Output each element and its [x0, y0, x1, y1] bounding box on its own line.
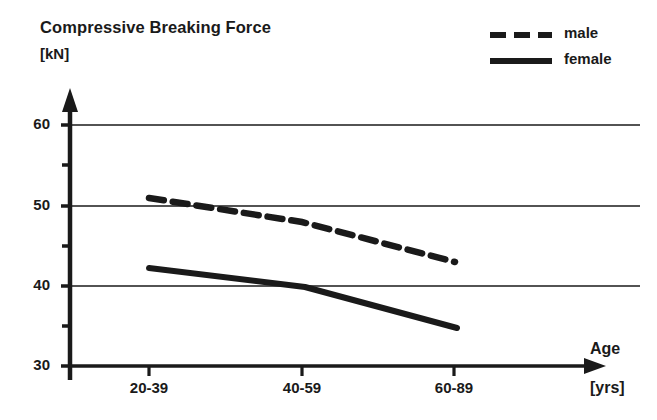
plot-area	[0, 0, 657, 420]
x-axis	[70, 358, 606, 376]
y-tick-label-40: 40	[10, 276, 50, 293]
y-tick-label-30: 30	[10, 356, 50, 373]
x-tick-label-20-39: 20-39	[104, 379, 194, 396]
gridlines	[70, 125, 640, 286]
x-axis-arrowhead-icon	[584, 358, 606, 374]
x-axis-name: Age	[590, 340, 620, 358]
y-axis-arrowhead-icon	[62, 88, 78, 112]
y-tick-label-50: 50	[10, 196, 50, 213]
y-axis	[61, 88, 78, 380]
series-line-male	[149, 198, 455, 262]
x-tick-label-40-59: 40-59	[257, 379, 347, 396]
chart-figure: Compressive Breaking Force [kN] male fem…	[0, 0, 657, 420]
x-tick-label-60-89: 60-89	[409, 379, 499, 396]
series-line-female	[149, 268, 457, 328]
x-axis-unit-label: [yrs]	[590, 379, 625, 397]
y-tick-label-60: 60	[10, 115, 50, 132]
